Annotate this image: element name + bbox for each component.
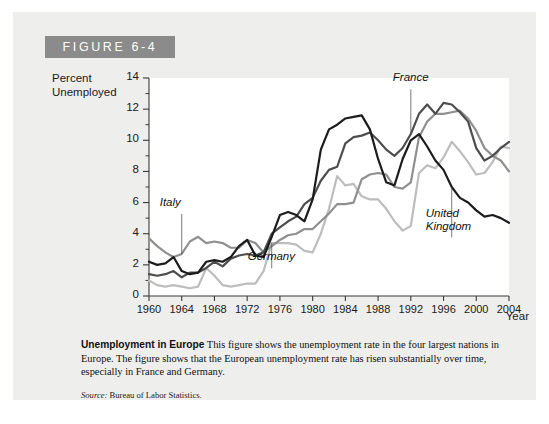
series-label-france: France — [393, 71, 429, 84]
x-axis-tick-label: 1976 — [262, 303, 298, 315]
x-axis-tick-label: 1968 — [196, 303, 232, 315]
source-text: Bureau of Labor Statistics. — [110, 390, 202, 400]
y-axis-tick-label: 6 — [113, 195, 139, 207]
y-axis-title: Percent Unemployed — [52, 72, 117, 99]
caption-title: Unemployment in Europe — [81, 339, 204, 350]
series-line-united-kingdom — [149, 115, 509, 274]
y-axis-tick-label: 4 — [113, 226, 139, 238]
figure-caption: Unemployment in Europe This figure shows… — [81, 338, 505, 379]
x-axis-tick-label: 1960 — [131, 303, 167, 315]
x-axis-tick-label: 2004 — [491, 303, 527, 315]
y-axis-tick-label: 14 — [113, 70, 139, 82]
series-label-italy: Italy — [160, 196, 181, 209]
x-axis-tick-label: 1980 — [295, 303, 331, 315]
x-axis-tick-label: 1984 — [327, 303, 363, 315]
series-line-italy — [149, 111, 509, 257]
series-label-united-kingdom: United Kingdom — [426, 207, 471, 233]
y-axis-tick-label: 8 — [113, 163, 139, 175]
x-axis-tick-label: 2000 — [458, 303, 494, 315]
x-axis-tick-label: 1996 — [426, 303, 462, 315]
y-axis-tick-label: 12 — [113, 101, 139, 113]
figure-number-tag: FIGURE 6-4 — [45, 36, 175, 58]
y-axis-tick-label: 10 — [113, 132, 139, 144]
chart-area: Percent Unemployed Year 0246810121419601… — [46, 68, 529, 320]
y-axis-tick-label: 2 — [113, 257, 139, 269]
plot-surface — [149, 78, 509, 296]
figure-source: Source: Bureau of Labor Statistics. — [81, 390, 505, 400]
line-chart-svg — [149, 78, 509, 296]
series-label-germany: Germany — [248, 250, 295, 263]
y-axis-tick-label: 0 — [113, 288, 139, 300]
x-axis-tick-label: 1964 — [164, 303, 200, 315]
x-axis-tick-label: 1988 — [360, 303, 396, 315]
x-axis-tick-label: 1992 — [393, 303, 429, 315]
source-label: Source: — [81, 390, 107, 400]
figure-panel: FIGURE 6-4 Percent Unemployed Year 02468… — [13, 12, 536, 400]
x-axis-tick-label: 1972 — [229, 303, 265, 315]
